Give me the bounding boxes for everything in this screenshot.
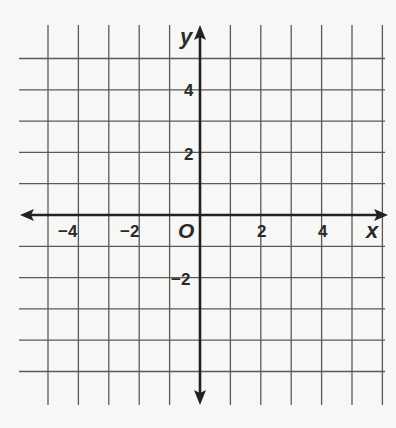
- y-tick-label: −2: [171, 270, 190, 289]
- y-tick-label: 2: [184, 145, 193, 164]
- x-tick-label: 2: [257, 222, 266, 241]
- origin-label: O: [178, 219, 194, 242]
- y-tick-label: 4: [184, 81, 194, 100]
- x-axis: [20, 209, 388, 221]
- x-tick-label: −4: [58, 222, 78, 241]
- coordinate-plane: y x O −4 −2 2 4 4 2 −2: [0, 0, 396, 428]
- x-tick-label: −2: [120, 222, 139, 241]
- x-tick-label: 4: [318, 222, 328, 241]
- x-axis-label: x: [365, 218, 379, 243]
- y-axis-label: y: [179, 24, 194, 49]
